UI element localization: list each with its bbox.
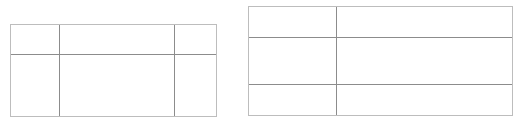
table-cell	[60, 25, 174, 54]
table-cell	[60, 55, 174, 116]
table-cell	[249, 7, 336, 37]
table-cell	[175, 55, 216, 116]
table-cell	[11, 55, 59, 116]
table-cell	[11, 25, 59, 54]
table-cell	[249, 38, 336, 84]
table-cell	[249, 85, 336, 115]
right-table-grid	[248, 6, 513, 116]
table-cell	[175, 25, 216, 54]
table-cell	[337, 7, 512, 37]
table-cell	[337, 85, 512, 115]
table-cell	[337, 38, 512, 84]
left-table-grid	[10, 24, 217, 117]
